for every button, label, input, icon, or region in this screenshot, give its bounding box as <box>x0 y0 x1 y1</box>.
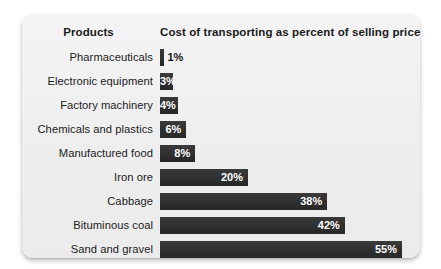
chart-card: Products Cost of transporting as percent… <box>22 14 420 258</box>
chart-row: Pharmaceuticals1% <box>22 48 420 72</box>
bar-track: 4% <box>160 97 416 114</box>
bar-track: 38% <box>160 193 416 210</box>
bar-value-label: 8% <box>160 145 195 162</box>
category-label: Pharmaceuticals <box>22 51 153 63</box>
bar-value-label: 3% <box>160 73 173 90</box>
category-label: Electronic equipment <box>22 75 153 87</box>
chart-row: Bituminous coal42% <box>22 216 420 240</box>
chart-row: Chemicals and plastics6% <box>22 120 420 144</box>
bar-value-label: 6% <box>160 121 186 138</box>
chart-row: Factory machinery4% <box>22 96 420 120</box>
chart-row: Sand and gravel55% <box>22 240 420 264</box>
bar-value-label: 1% <box>164 49 183 66</box>
bar-track: 8% <box>160 145 416 162</box>
bar-value-label: 38% <box>160 193 327 210</box>
category-label: Iron ore <box>22 171 153 183</box>
bar-value-label: 20% <box>160 169 248 186</box>
category-label: Cabbage <box>22 195 153 207</box>
bar-value-label: 55% <box>160 241 402 258</box>
category-label: Factory machinery <box>22 99 153 111</box>
category-label: Chemicals and plastics <box>22 123 153 135</box>
bar-track: 1% <box>160 49 416 66</box>
bar-value-label: 4% <box>160 97 178 114</box>
bar-chart: Products Cost of transporting as percent… <box>22 14 420 258</box>
bar-track: 3% <box>160 73 416 90</box>
bar-track: 20% <box>160 169 416 186</box>
chart-row: Cabbage38% <box>22 192 420 216</box>
bar-track: 6% <box>160 121 416 138</box>
column-header-products: Products <box>22 26 155 38</box>
chart-row: Iron ore20% <box>22 168 420 192</box>
bar-value-label: 42% <box>160 217 345 234</box>
category-label: Manufactured food <box>22 147 153 159</box>
bar-track: 42% <box>160 217 416 234</box>
chart-row: Manufactured food8% <box>22 144 420 168</box>
category-label: Bituminous coal <box>22 219 153 231</box>
chart-row: Electronic equipment3% <box>22 72 420 96</box>
category-label: Sand and gravel <box>22 243 153 255</box>
bar-track: 55% <box>160 241 416 258</box>
column-header-cost: Cost of transporting as percent of selli… <box>160 26 420 38</box>
